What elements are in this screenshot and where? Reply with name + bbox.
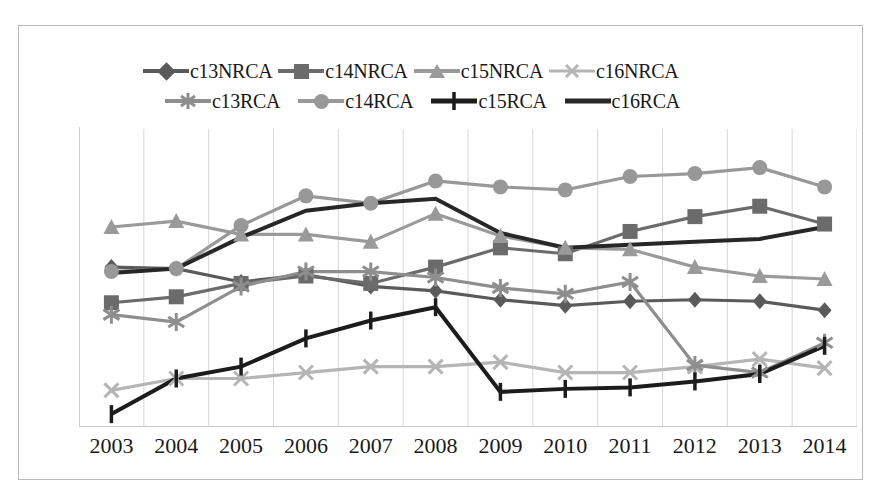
legend-label: c16NRCA	[596, 60, 678, 83]
square-marker	[752, 199, 767, 214]
square-marker	[169, 289, 184, 304]
legend-item-c15NRCA: c15NRCA	[414, 60, 543, 83]
legend-label: c13RCA	[212, 90, 280, 113]
chart-legend: c13NRCA c14NRCA c15NRCA	[131, 56, 851, 118]
legend-label: c16RCA	[612, 90, 680, 113]
legend-label: c14RCA	[345, 90, 413, 113]
chart-frame: c13NRCA c14NRCA c15NRCA	[18, 25, 863, 480]
plus-icon	[431, 92, 477, 110]
x-axis-tick-label: 2006	[273, 433, 338, 467]
circle-marker	[298, 188, 313, 203]
square-marker	[817, 217, 832, 232]
x-axis-tick-label: 2012	[662, 433, 727, 467]
circle-marker	[363, 196, 378, 211]
x-axis-line	[79, 426, 857, 427]
diamond-icon	[143, 62, 189, 80]
triangle-icon	[414, 62, 460, 80]
circle-marker	[428, 173, 443, 188]
diamond-marker	[623, 293, 637, 309]
x-axis-tick-label: 2013	[727, 433, 792, 467]
x-axis-tick-label: 2010	[533, 433, 598, 467]
legend-item-c16NRCA: c16NRCA	[549, 60, 678, 83]
line-icon	[565, 92, 611, 110]
circle-marker	[687, 166, 702, 181]
plot-area	[79, 129, 857, 426]
x-axis-labels: 2003200420052006200720082009201020112012…	[79, 433, 857, 467]
legend-item-c14RCA: c14RCA	[298, 90, 413, 113]
asterisk-icon	[165, 92, 211, 110]
x-icon	[549, 62, 595, 80]
square-marker	[623, 224, 638, 239]
x-axis-tick-label: 2003	[79, 433, 144, 467]
circle-marker	[558, 182, 573, 197]
circle-icon	[298, 92, 344, 110]
x-axis-tick-label: 2005	[209, 433, 274, 467]
x-axis-tick-label: 2008	[403, 433, 468, 467]
legend-item-c16RCA: c16RCA	[565, 90, 680, 113]
circle-marker	[234, 218, 249, 233]
x-axis-tick-label: 2007	[338, 433, 403, 467]
legend-row-1: c13NRCA c14NRCA c15NRCA	[131, 56, 851, 86]
x-axis-tick-label: 2014	[792, 433, 857, 467]
square-marker	[687, 209, 702, 224]
square-icon	[278, 62, 324, 80]
legend-label: c13NRCA	[190, 60, 272, 83]
legend-row-2: c13RCA c14RCA c15RCA c16R	[131, 86, 851, 116]
legend-item-c15RCA: c15RCA	[431, 90, 546, 113]
legend-item-c13RCA: c13RCA	[165, 90, 280, 113]
legend-label: c14NRCA	[325, 60, 407, 83]
circle-marker	[104, 264, 119, 279]
circle-marker	[623, 169, 638, 184]
diamond-marker	[753, 293, 767, 309]
legend-item-c13NRCA: c13NRCA	[143, 60, 272, 83]
chart-series-svg	[79, 129, 857, 426]
circle-marker	[169, 261, 184, 276]
legend-label: c15RCA	[478, 90, 546, 113]
diamond-marker	[688, 292, 702, 308]
legend-item-c14NRCA: c14NRCA	[278, 60, 407, 83]
x-axis-tick-label: 2009	[468, 433, 533, 467]
diamond-marker	[818, 302, 832, 318]
circle-marker	[752, 160, 767, 175]
x-axis-tick-label: 2004	[144, 433, 209, 467]
legend-label: c15NRCA	[461, 60, 543, 83]
circle-marker	[493, 179, 508, 194]
triangle-marker	[428, 206, 444, 221]
circle-marker	[817, 179, 832, 194]
x-axis-tick-label: 2011	[598, 433, 663, 467]
